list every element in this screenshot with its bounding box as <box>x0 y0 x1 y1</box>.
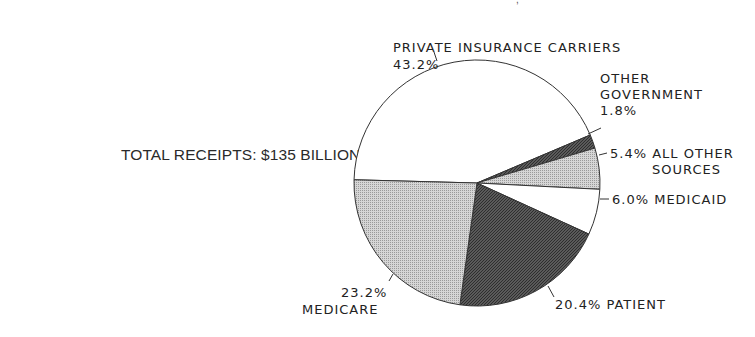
label-other-government-pct: 1.8% <box>600 103 637 119</box>
pie-slices <box>354 60 600 306</box>
label-medicaid: 6.0% MEDICAID <box>612 192 727 208</box>
label-private-insurance-pct: 43.2% <box>393 57 439 73</box>
label-other-government-line1: OTHER <box>600 71 650 87</box>
label-private-insurance-name: PRIVATE INSURANCE CARRIERS <box>393 40 621 56</box>
label-medicare-name: MEDICARE <box>302 302 379 318</box>
label-patient: 20.4% PATIENT <box>555 297 666 313</box>
label-medicare-pct: 23.2% <box>341 285 387 301</box>
label-all-other-sources-line1: 5.4% ALL OTHER <box>610 146 734 162</box>
label-other-government-line2: GOVERNMENT <box>600 87 703 103</box>
label-all-other-sources-line2: SOURCES <box>652 162 721 178</box>
